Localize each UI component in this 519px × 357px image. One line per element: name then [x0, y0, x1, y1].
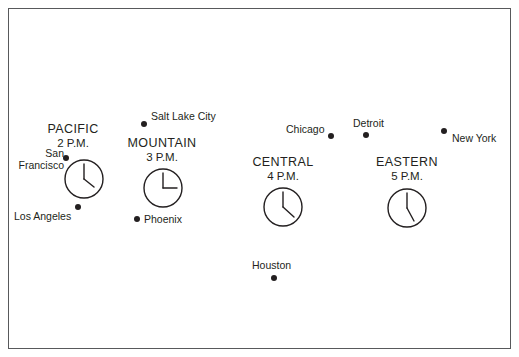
map-border-frame: [8, 8, 511, 349]
time-zone-map-figure: PACIFIC 2 P.M. MOUNTAIN 3 P.M. CENTRAL 4…: [0, 0, 519, 357]
